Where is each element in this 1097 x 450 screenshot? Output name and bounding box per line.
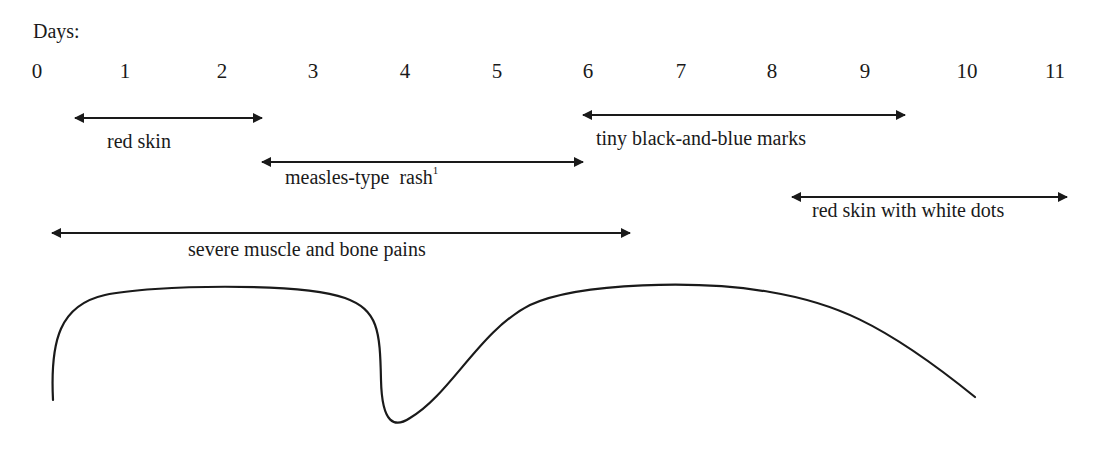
footnote-marker: 1 [433, 164, 439, 176]
measles-rash-text: measles-type rash [285, 166, 433, 188]
red-skin-white-dots-label: red skin with white dots [812, 199, 1004, 222]
fever-curve [53, 285, 975, 423]
black-blue-marks-label: tiny black-and-blue marks [596, 127, 806, 150]
muscle-bone-pains-label: severe muscle and bone pains [188, 238, 426, 261]
measles-rash-label: measles-type rash1 [285, 166, 438, 189]
timeline-diagram [0, 0, 1097, 450]
red-skin-label: red skin [107, 130, 171, 153]
